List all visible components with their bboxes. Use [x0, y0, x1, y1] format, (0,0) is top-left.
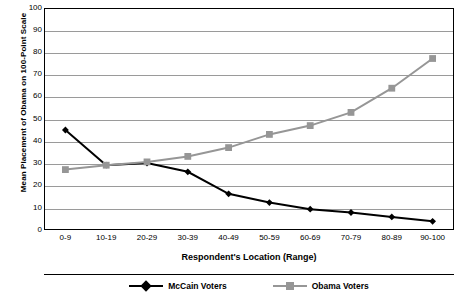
x-tick-0: 0-9 [45, 233, 86, 243]
legend-label-obama: Obama Voters [312, 281, 369, 291]
y-tick-70: 70 [20, 70, 42, 78]
chart-container: Mean Placement of Obama on 100-Point Sca… [0, 0, 470, 301]
y-tick-10: 10 [20, 204, 42, 212]
x-tick-9: 90-100 [412, 233, 453, 243]
y-tick-30: 30 [20, 159, 42, 167]
y-tick-90: 90 [20, 26, 42, 34]
legend-entry-mccain: McCain Voters [129, 281, 226, 291]
x-tick-8: 80-89 [371, 233, 412, 243]
chart-legend: McCain Voters Obama Voters [44, 274, 454, 297]
y-tick-20: 20 [20, 181, 42, 189]
x-tick-4: 40-49 [208, 233, 249, 243]
x-tick-6: 60-69 [290, 233, 331, 243]
x-tick-5: 50-59 [249, 233, 290, 243]
y-tick-0: 0 [20, 226, 42, 234]
legend-entry-obama: Obama Voters [273, 281, 369, 291]
series-layer [45, 9, 453, 229]
y-tick-80: 80 [20, 48, 42, 56]
y-tick-50: 50 [20, 115, 42, 123]
plot-area [44, 8, 454, 230]
x-tick-3: 30-39 [167, 233, 208, 243]
x-tick-7: 70-79 [331, 233, 372, 243]
legend-label-mccain: McCain Voters [168, 281, 226, 291]
x-axis-title: Respondent's Location (Range) [44, 252, 454, 262]
legend-swatch-mccain-diamond-icon [129, 281, 163, 291]
y-tick-60: 60 [20, 92, 42, 100]
x-tick-2: 20-29 [127, 233, 168, 243]
y-tick-100: 100 [20, 4, 42, 12]
x-axis-tick-labels: 0-9 10-19 20-29 30-39 40-49 50-59 60-69 … [44, 233, 454, 247]
x-tick-1: 10-19 [86, 233, 127, 243]
legend-swatch-obama-square-icon [273, 281, 307, 291]
y-tick-40: 40 [20, 137, 42, 145]
y-axis-tick-labels: 100 90 80 70 60 50 40 30 20 10 0 [16, 8, 42, 230]
